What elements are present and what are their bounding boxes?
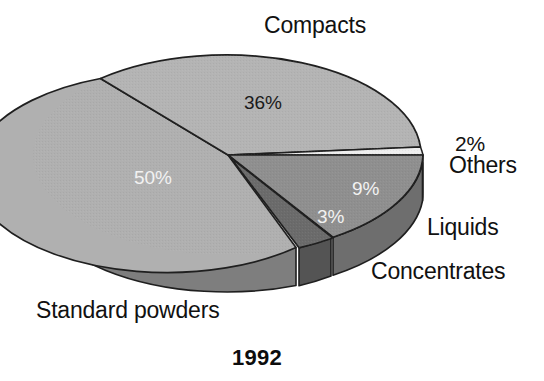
slice-value-liquids: 9% [352, 178, 379, 200]
pie-chart-figure: Compacts 2% Others Liquids Concentrates … [0, 0, 544, 381]
slice-label-others: Others [449, 152, 517, 178]
slice-label-concentrates: Concentrates [371, 258, 505, 284]
chart-title: 1992 [232, 345, 282, 371]
slice-label-liquids: Liquids [427, 214, 499, 240]
slice-value-standard-powders: 50% [134, 167, 172, 189]
slice-label-standard-powders: Standard powders [36, 297, 219, 323]
slice-label-compacts: Compacts [264, 12, 366, 38]
slice-value-concentrates: 3% [317, 206, 344, 228]
pie-chart-graphic [0, 0, 544, 381]
slice-value-compacts: 36% [244, 92, 282, 114]
